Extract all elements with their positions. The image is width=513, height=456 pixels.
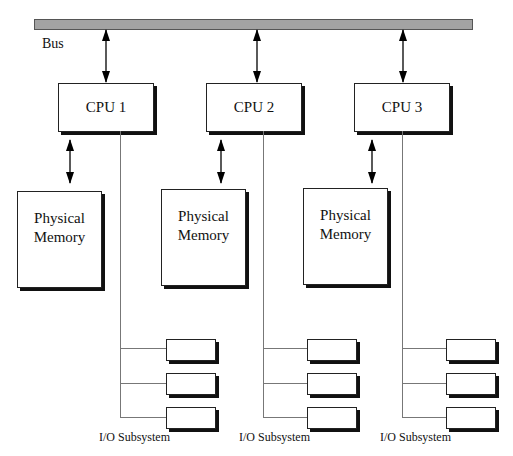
cpu-3-box: CPU 3 [354,83,450,132]
io-1-device-1 [166,339,216,361]
memory-1-line2: Memory [34,228,86,247]
io-subsystem-3-label: I/O Subsystem [380,430,451,445]
io-trunk-2 [263,131,264,418]
memory-3-line2: Memory [320,225,372,244]
io-2-branch-1 [263,348,307,349]
memory-2-line1: Physical [178,207,230,226]
io-subsystem-1-label: I/O Subsystem [99,430,170,445]
io-1-branch-2 [120,383,166,384]
io-3-device-2 [446,373,496,395]
io-3-device-3 [446,407,496,429]
io-2-branch-2 [263,383,307,384]
memory-3-line1: Physical [320,206,372,225]
memory-3-label: Physical Memory [320,206,372,244]
memory-2-line2: Memory [178,226,230,245]
io-2-device-1 [307,339,357,361]
io-trunk-3 [402,131,403,418]
io-2-device-3 [307,407,357,429]
io-2-branch-3 [263,417,307,418]
io-1-device-3 [166,407,216,429]
io-3-branch-1 [402,348,446,349]
cpu-2-box: CPU 2 [206,83,302,132]
io-1-branch-3 [120,417,166,418]
cpu-1-box: CPU 1 [58,83,154,132]
memory-1-line1: Physical [34,209,86,228]
memory-1-label: Physical Memory [34,209,86,247]
physical-memory-1-box: Physical Memory [17,191,102,288]
io-3-branch-2 [402,383,446,384]
io-2-device-2 [307,373,357,395]
physical-memory-3-box: Physical Memory [303,188,388,285]
io-1-device-2 [166,373,216,395]
cpu-1-label: CPU 1 [86,99,126,116]
physical-memory-2-box: Physical Memory [161,189,246,286]
cpu-2-label: CPU 2 [234,99,274,116]
io-trunk-1 [120,131,121,418]
memory-2-label: Physical Memory [178,207,230,245]
io-1-branch-1 [120,348,166,349]
cpu-3-label: CPU 3 [382,99,422,116]
io-subsystem-2-label: I/O Subsystem [239,430,310,445]
io-3-device-1 [446,339,496,361]
io-3-branch-3 [402,417,446,418]
